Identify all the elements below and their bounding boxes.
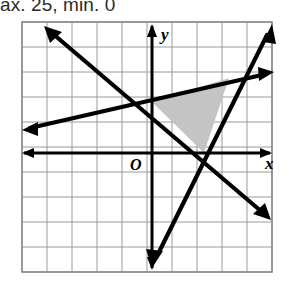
origin-label: O: [130, 156, 142, 173]
coordinate-plane-svg: y x O: [0, 18, 290, 289]
caption-text: ax. 25, min. 0: [0, 0, 290, 16]
x-axis-label: x: [264, 154, 274, 173]
coordinate-plane-figure: y x O: [0, 18, 290, 289]
y-axis-label: y: [159, 25, 169, 44]
figure-page: ax. 25, min. 0: [0, 0, 290, 289]
